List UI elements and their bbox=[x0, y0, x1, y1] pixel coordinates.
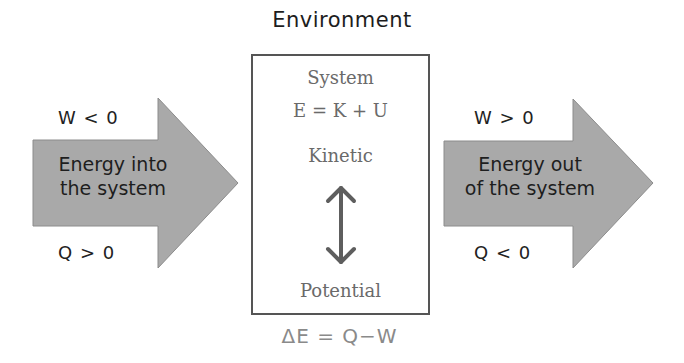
first-law-equation: ΔE = Q−W bbox=[251, 324, 428, 348]
system-title: System bbox=[253, 67, 428, 88]
kinetic-label: Kinetic bbox=[253, 145, 428, 166]
energy-out-label-line2: of the system bbox=[444, 176, 616, 200]
heat-in-condition: Q > 0 bbox=[58, 242, 115, 263]
energy-in-label-line2: the system bbox=[33, 176, 193, 200]
energy-in-label-line1: Energy into bbox=[33, 152, 193, 176]
energy-in-label: Energy into the system bbox=[33, 152, 193, 200]
potential-label: Potential bbox=[253, 280, 428, 301]
energy-equation: E = K + U bbox=[253, 100, 428, 121]
kinetic-potential-exchange-icon bbox=[324, 184, 358, 266]
work-out-condition: W > 0 bbox=[474, 107, 535, 128]
heat-out-condition: Q < 0 bbox=[474, 242, 531, 263]
system-box: System E = K + U Kinetic Potential bbox=[251, 54, 430, 315]
energy-out-label: Energy out of the system bbox=[444, 152, 616, 200]
work-in-condition: W < 0 bbox=[58, 107, 119, 128]
energy-out-label-line1: Energy out bbox=[444, 152, 616, 176]
